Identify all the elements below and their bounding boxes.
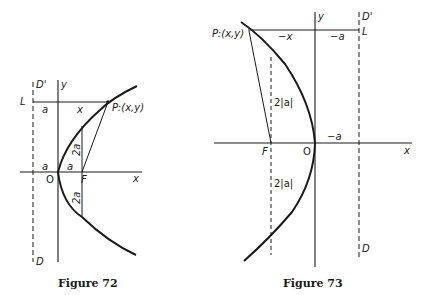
point-p-marker xyxy=(106,100,110,104)
caption-figure-72: Figure 72 xyxy=(58,277,118,290)
label-seg-a-right: a xyxy=(67,161,73,172)
label-y-axis: y xyxy=(317,11,325,22)
focal-radius xyxy=(249,31,271,143)
label-origin: O xyxy=(303,146,311,157)
label-chord-upper: 2|a| xyxy=(274,97,293,109)
label-y-axis: y xyxy=(60,79,68,90)
label-focus: F xyxy=(81,174,87,185)
focal-radius xyxy=(82,102,108,172)
label-directrix-bottom: D xyxy=(362,243,370,254)
label-x-axis: x xyxy=(403,145,410,156)
figures-canvas: D' D y x L P:(x,y) a x a a O F 2a 2a Fig… xyxy=(0,0,428,295)
label-directrix-top: D' xyxy=(362,11,372,22)
label-l: L xyxy=(362,26,368,37)
figure-73 xyxy=(214,12,412,267)
label-seg-neg-a-top: −a xyxy=(330,31,345,42)
label-chord-lower: 2|a| xyxy=(274,178,293,190)
label-focus: F xyxy=(262,146,268,157)
caption-figure-73: Figure 73 xyxy=(283,277,343,290)
figure-73-labels: D' D y x L P:(x,y) −x −a −a O F 2|a| 2|a… xyxy=(212,11,410,290)
label-l: L xyxy=(20,96,26,107)
label-chord-upper: 2a xyxy=(71,144,82,157)
label-seg-x-top: x xyxy=(76,104,83,115)
label-seg-neg-a-axis: −a xyxy=(327,131,342,142)
parabola-curve xyxy=(241,22,315,261)
label-chord-lower: 2a xyxy=(71,192,82,205)
label-x-axis: x xyxy=(132,173,139,184)
label-seg-neg-x: −x xyxy=(278,31,292,42)
label-directrix-bottom: D xyxy=(36,256,44,267)
label-directrix-top: D' xyxy=(36,79,46,90)
label-seg-a-left: a xyxy=(42,161,48,172)
label-point-p: P:(x,y) xyxy=(112,102,144,113)
label-point-p: P:(x,y) xyxy=(212,28,244,39)
label-seg-a-top: a xyxy=(42,104,48,115)
figure-72-labels: D' D y x L P:(x,y) a x a a O F 2a 2a Fig… xyxy=(20,79,144,290)
label-origin: O xyxy=(46,174,54,185)
